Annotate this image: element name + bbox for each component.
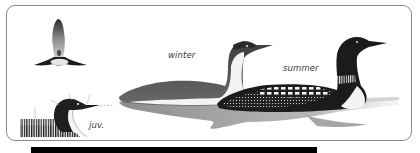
juvenile-loon-head bbox=[20, 94, 113, 137]
bottom-black-bar bbox=[31, 147, 317, 153]
winter-label: winter bbox=[168, 50, 195, 60]
flying-loon bbox=[34, 19, 87, 66]
illustration-frame: winter summer juv. bbox=[6, 5, 412, 141]
loon-illustration bbox=[7, 6, 412, 141]
summer-label: summer bbox=[283, 63, 319, 73]
juvenile-label: juv. bbox=[89, 120, 104, 130]
